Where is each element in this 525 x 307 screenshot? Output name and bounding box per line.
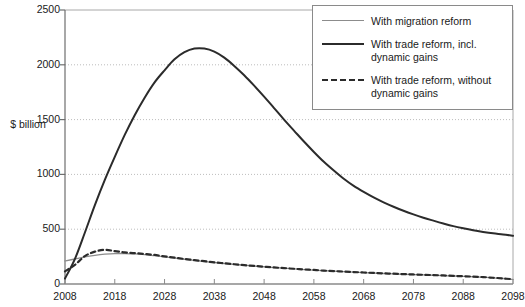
legend-swatch-dashed-black-line [321, 74, 365, 86]
legend-label: With trade reform, incl. dynamic gains [371, 38, 477, 63]
legend-label: With migration reform [371, 15, 471, 28]
legend-swatch-thick-black-line [321, 38, 365, 50]
legend: With migration reform With trade reform,… [312, 5, 513, 110]
chart-container: $ billion 05001000150020002500 200820182… [0, 0, 525, 307]
legend-item-trade-reform-with-dynamic-gains[interactable]: With trade reform, incl. dynamic gains [321, 38, 477, 63]
legend-swatch-thin-grey-line [321, 15, 365, 27]
legend-item-trade-reform-without-dynamic-gains[interactable]: With trade reform, without dynamic gains [321, 74, 491, 99]
legend-label: With trade reform, without dynamic gains [371, 74, 491, 99]
legend-item-migration-reform[interactable]: With migration reform [321, 15, 471, 28]
